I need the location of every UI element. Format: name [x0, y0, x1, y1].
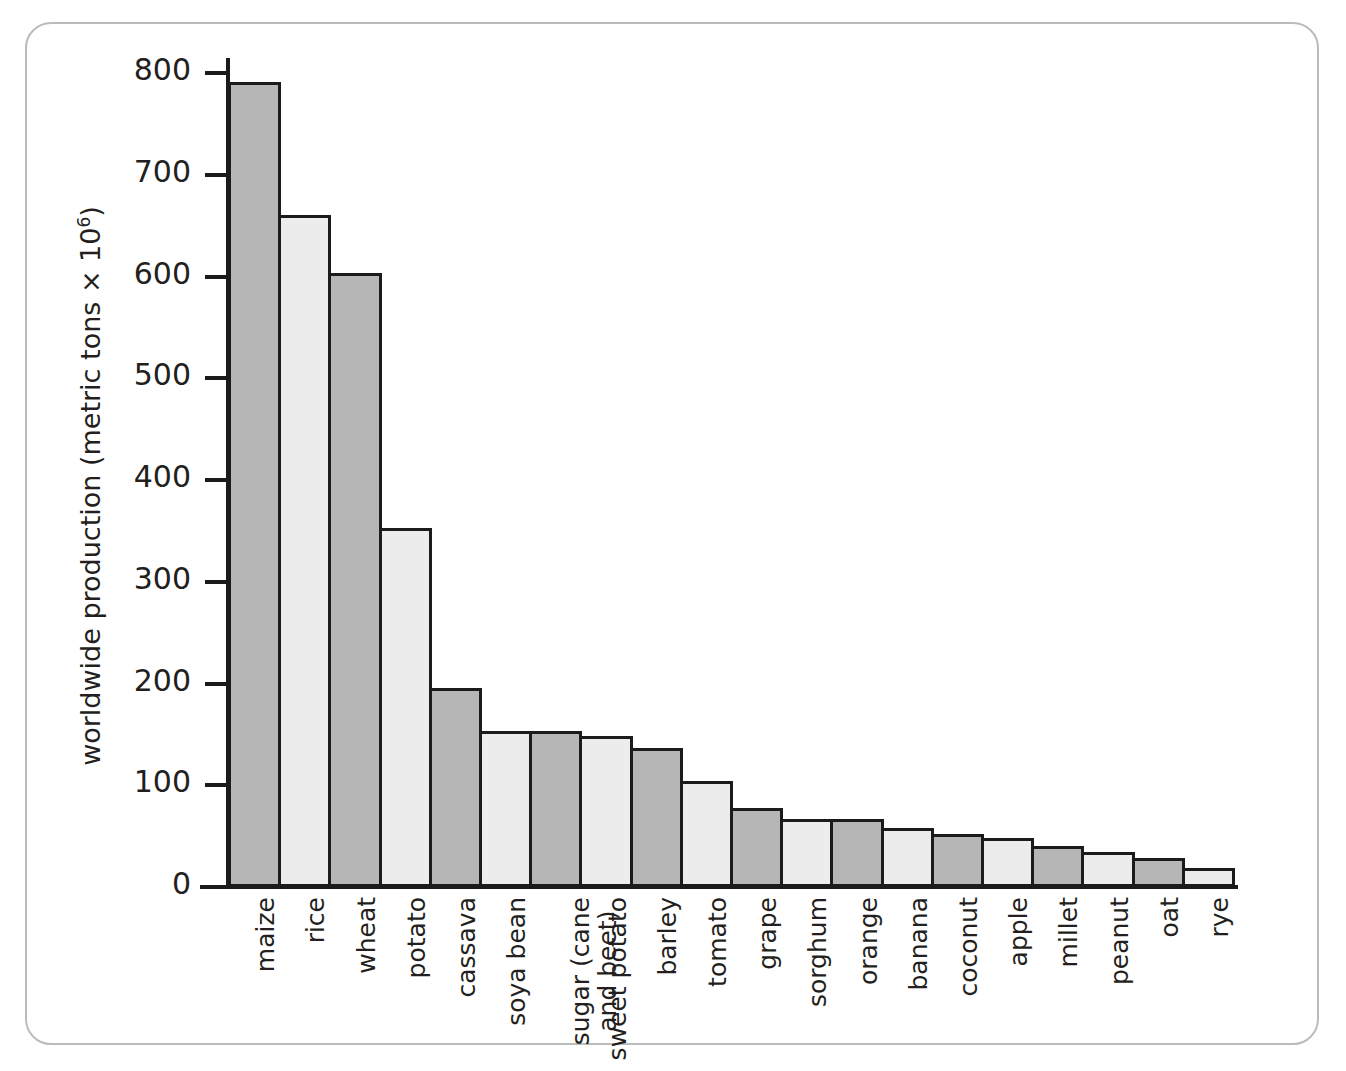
- bar[interactable]: [579, 736, 632, 887]
- y-axis-tick: [205, 478, 227, 482]
- y-axis-tick: [205, 173, 227, 177]
- y-axis-tick: [205, 580, 227, 584]
- bar[interactable]: [479, 731, 532, 887]
- y-axis-tick: [205, 682, 227, 686]
- y-axis-tick-label: 300: [134, 561, 191, 596]
- x-axis-tick-label: potato: [404, 897, 431, 978]
- bar[interactable]: [931, 834, 984, 887]
- y-axis-tick-label: 500: [134, 357, 191, 392]
- x-axis-tick-label: tomato: [705, 897, 732, 987]
- y-axis-tick-label: 800: [134, 52, 191, 87]
- bar[interactable]: [1081, 852, 1134, 887]
- x-axis-tick-label: rye: [1207, 897, 1234, 937]
- y-axis-title: worldwide production (metric tons × 106): [74, 206, 106, 766]
- bar[interactable]: [630, 748, 683, 887]
- y-axis-tick: [205, 71, 227, 75]
- x-axis-tick-label: maize: [253, 897, 280, 972]
- bar[interactable]: [278, 215, 331, 887]
- bar[interactable]: [1132, 858, 1185, 888]
- x-axis-tick-label: apple: [1006, 897, 1033, 966]
- bar[interactable]: [780, 819, 833, 887]
- x-axis-tick-label: barley: [655, 897, 682, 976]
- x-axis-tick-label: sweet potato: [605, 897, 632, 1060]
- x-axis-tick-label: sorghum: [805, 897, 832, 1007]
- x-axis-tick-label: rice: [303, 897, 330, 943]
- x-axis-tick-label: peanut: [1107, 897, 1134, 985]
- y-axis-tick-label: 400: [134, 459, 191, 494]
- bar[interactable]: [228, 82, 281, 887]
- x-axis-tick-label: wheat: [354, 897, 381, 974]
- y-axis-title-exponent: 6: [74, 217, 94, 228]
- bar[interactable]: [1031, 846, 1084, 887]
- y-axis-tick: [205, 376, 227, 380]
- bar[interactable]: [328, 273, 381, 887]
- bar[interactable]: [429, 688, 482, 887]
- bar[interactable]: [881, 828, 934, 887]
- x-axis-tick-label-line: sugar (cane: [568, 897, 595, 1045]
- bars-layer: [228, 0, 1232, 887]
- x-axis-tick-label: orange: [856, 897, 883, 985]
- bar[interactable]: [379, 528, 432, 887]
- bar[interactable]: [1182, 868, 1235, 887]
- bar-chart-plot-area: 0100200300400500600700800 worldwide prod…: [0, 0, 1346, 1071]
- y-axis-tick: [205, 275, 227, 279]
- x-axis-tick-label: banana: [906, 897, 933, 991]
- y-axis-tick-label: 0: [172, 866, 191, 901]
- bar[interactable]: [680, 781, 733, 887]
- y-axis-tick-label: 100: [134, 764, 191, 799]
- x-axis-tick-label: millet: [1056, 897, 1083, 967]
- y-axis-tick-label: 200: [134, 663, 191, 698]
- y-axis-tick: [205, 885, 227, 889]
- y-axis-tick: [205, 783, 227, 787]
- x-axis-tick-label: soya bean: [504, 897, 531, 1026]
- x-axis-tick-label: oat: [1157, 897, 1184, 937]
- y-axis-tick-label: 700: [134, 154, 191, 189]
- bar[interactable]: [529, 731, 582, 887]
- x-axis-tick-label: grape: [755, 897, 782, 970]
- x-axis-tick-label: cassava: [454, 897, 481, 998]
- bar[interactable]: [730, 808, 783, 887]
- x-axis-tick-label: coconut: [956, 897, 983, 997]
- y-axis-tick-label: 600: [134, 256, 191, 291]
- bar[interactable]: [981, 838, 1034, 887]
- bar[interactable]: [830, 819, 883, 887]
